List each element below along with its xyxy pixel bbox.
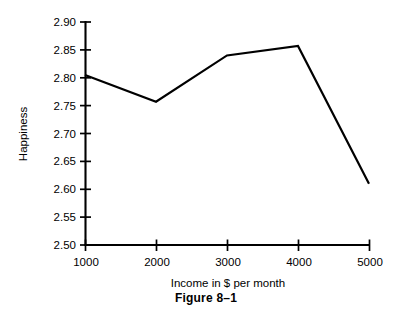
x-tick-label-2000: 2000 <box>144 256 170 268</box>
y-tick-label-2-80: 2.80 <box>54 72 76 84</box>
y-tick-label-2-70: 2.70 <box>54 128 76 140</box>
y-axis-title: Happiness <box>17 107 29 162</box>
data-series-line <box>85 46 369 184</box>
x-tick-label-3000: 3000 <box>215 256 241 268</box>
x-tick-label-4000: 4000 <box>286 256 312 268</box>
y-axis-tick-labels: 2.50 2.55 2.60 2.65 2.70 2.75 2.80 2.85 … <box>54 16 76 251</box>
y-tick-label-2-75: 2.75 <box>54 100 76 112</box>
chart-canvas: Happiness 2.50 2.55 2.60 2.65 2.70 2.75 … <box>0 0 412 290</box>
x-axis-tick-labels: 1000 2000 3000 4000 5000 <box>73 256 383 268</box>
y-tick-label-2-50: 2.50 <box>54 239 76 251</box>
y-tick-label-2-55: 2.55 <box>54 211 76 223</box>
y-tick-label-2-90: 2.90 <box>54 16 76 28</box>
figure-container: Happiness 2.50 2.55 2.60 2.65 2.70 2.75 … <box>0 0 412 319</box>
x-tick-label-5000: 5000 <box>357 256 383 268</box>
x-tick-label-1000: 1000 <box>73 256 99 268</box>
y-axis-title-group: Happiness <box>17 107 29 162</box>
y-tick-label-2-65: 2.65 <box>54 155 76 167</box>
figure-caption: Figure 8–1 <box>0 291 412 305</box>
x-axis-title: Income in $ per month <box>171 277 285 289</box>
line-chart: Happiness 2.50 2.55 2.60 2.65 2.70 2.75 … <box>0 0 412 290</box>
y-tick-label-2-60: 2.60 <box>54 183 76 195</box>
y-tick-label-2-85: 2.85 <box>54 44 76 56</box>
